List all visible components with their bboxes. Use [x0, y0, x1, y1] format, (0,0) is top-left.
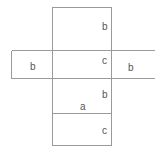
label-center-c: c [102, 56, 107, 66]
label-middle-b: b [102, 90, 108, 100]
label-left-b: b [30, 62, 36, 72]
label-right-b: b [128, 63, 134, 73]
net-drawing-canvas [0, 0, 161, 154]
label-top-b: b [102, 22, 108, 32]
label-bottom-c: c [102, 126, 107, 136]
label-a: a [80, 102, 86, 112]
geometry-net-figure: b c b b b a c [0, 0, 161, 154]
